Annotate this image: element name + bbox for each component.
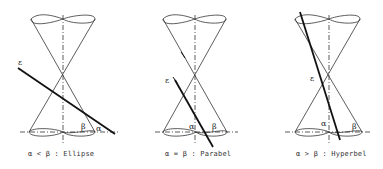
parabola-caption: α = β : Parabel [165,150,231,158]
ellipse-beta-label: β [81,122,86,131]
hyperbola-caption: α > β : Hyperbel [296,150,367,158]
hyperbola-panel [285,12,372,145]
parabola-alpha-label: α [189,122,194,131]
hyperbola-alpha-label: α [321,119,326,128]
ellipse-alpha-label: α [96,124,101,133]
ellipse-plane-label: ε [18,58,22,67]
conic-sections-diagram [0,0,383,169]
parabola-plane-label: ε [165,76,169,85]
hyperbola-beta-label: β [352,122,357,131]
ellipse-caption: α < β : Ellipse [28,150,94,158]
hyperbola-plane-label: ε [310,74,314,83]
ellipse-panel [18,15,118,145]
parabola-beta-label: β [212,122,217,131]
